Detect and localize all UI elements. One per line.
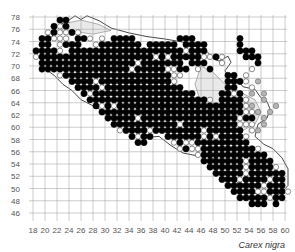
present-dot	[255, 176, 261, 182]
present-dot	[237, 189, 243, 195]
present-dot	[171, 109, 177, 115]
present-dot	[189, 109, 195, 115]
present-dot	[147, 48, 153, 54]
present-dot	[177, 115, 183, 121]
present-dot	[117, 72, 123, 78]
present-dot	[165, 91, 171, 97]
present-dot	[81, 72, 87, 78]
present-dot	[81, 35, 87, 41]
present-dot	[165, 84, 171, 90]
present-dot	[207, 115, 213, 121]
open-dot	[93, 79, 98, 84]
present-dot	[231, 103, 237, 109]
present-dot	[273, 170, 279, 176]
present-dot	[231, 189, 237, 195]
present-dot	[165, 133, 171, 139]
present-dot	[189, 103, 195, 109]
present-dot	[183, 35, 189, 41]
present-dot	[237, 48, 243, 54]
present-dot	[249, 201, 255, 207]
present-dot	[207, 66, 213, 72]
present-dot	[117, 35, 123, 41]
present-dot	[195, 42, 201, 48]
open-dot	[213, 134, 218, 139]
present-dot	[225, 152, 231, 158]
present-dot	[249, 182, 255, 188]
present-dot	[153, 84, 159, 90]
present-dot	[147, 97, 153, 103]
present-dot	[207, 127, 213, 133]
x-tick-label: 34	[125, 226, 134, 235]
present-dot	[183, 146, 189, 152]
present-dot	[141, 140, 147, 146]
present-dot	[225, 164, 231, 170]
present-dot	[279, 189, 285, 195]
present-dot	[267, 182, 273, 188]
present-dot	[201, 140, 207, 146]
present-dot	[75, 54, 81, 60]
present-dot	[141, 121, 147, 127]
present-dot	[159, 48, 165, 54]
open-dot	[249, 66, 254, 71]
present-dot	[153, 109, 159, 115]
present-dot	[45, 54, 51, 60]
present-dot	[189, 54, 195, 60]
present-dot	[201, 115, 207, 121]
open-dot	[285, 189, 290, 194]
present-dot	[81, 78, 87, 84]
open-dot	[231, 91, 236, 96]
present-dot	[201, 60, 207, 66]
present-dot	[93, 66, 99, 72]
present-dot	[195, 127, 201, 133]
present-dot	[153, 48, 159, 54]
gray-dot	[255, 79, 260, 84]
present-dot	[81, 66, 87, 72]
present-dot	[231, 140, 237, 146]
present-dot	[237, 78, 243, 84]
x-tick-label: 38	[149, 226, 158, 235]
open-dot	[171, 79, 176, 84]
present-dot	[267, 189, 273, 195]
open-dot	[255, 189, 260, 194]
present-dot	[225, 158, 231, 164]
x-tick-label: 36	[137, 226, 146, 235]
occurrence-dots	[33, 17, 291, 207]
present-dot	[87, 66, 93, 72]
y-axis-labels: 7876747270686664626058565452504846	[11, 13, 20, 218]
present-dot	[171, 48, 177, 54]
present-dot	[165, 109, 171, 115]
present-dot	[141, 91, 147, 97]
present-dot	[279, 195, 285, 201]
present-dot	[135, 66, 141, 72]
open-dot	[249, 109, 254, 114]
present-dot	[153, 115, 159, 121]
present-dot	[255, 60, 261, 66]
present-dot	[177, 66, 183, 72]
present-dot	[177, 48, 183, 54]
present-dot	[153, 103, 159, 109]
present-dot	[213, 127, 219, 133]
present-dot	[129, 91, 135, 97]
present-dot	[273, 189, 279, 195]
present-dot	[249, 54, 255, 60]
x-tick-label: 46	[197, 226, 206, 235]
present-dot	[57, 54, 63, 60]
present-dot	[237, 103, 243, 109]
present-dot	[135, 127, 141, 133]
open-dot	[237, 177, 242, 182]
present-dot	[105, 84, 111, 90]
present-dot	[243, 189, 249, 195]
present-dot	[81, 48, 87, 54]
present-dot	[87, 54, 93, 60]
present-dot	[231, 115, 237, 121]
x-tick-label: 22	[53, 226, 62, 235]
present-dot	[177, 60, 183, 66]
open-dot	[87, 36, 92, 41]
present-dot	[171, 54, 177, 60]
present-dot	[81, 84, 87, 90]
x-tick-label: 24	[65, 226, 74, 235]
present-dot	[189, 35, 195, 41]
present-dot	[225, 176, 231, 182]
present-dot	[75, 72, 81, 78]
present-dot	[237, 91, 243, 97]
